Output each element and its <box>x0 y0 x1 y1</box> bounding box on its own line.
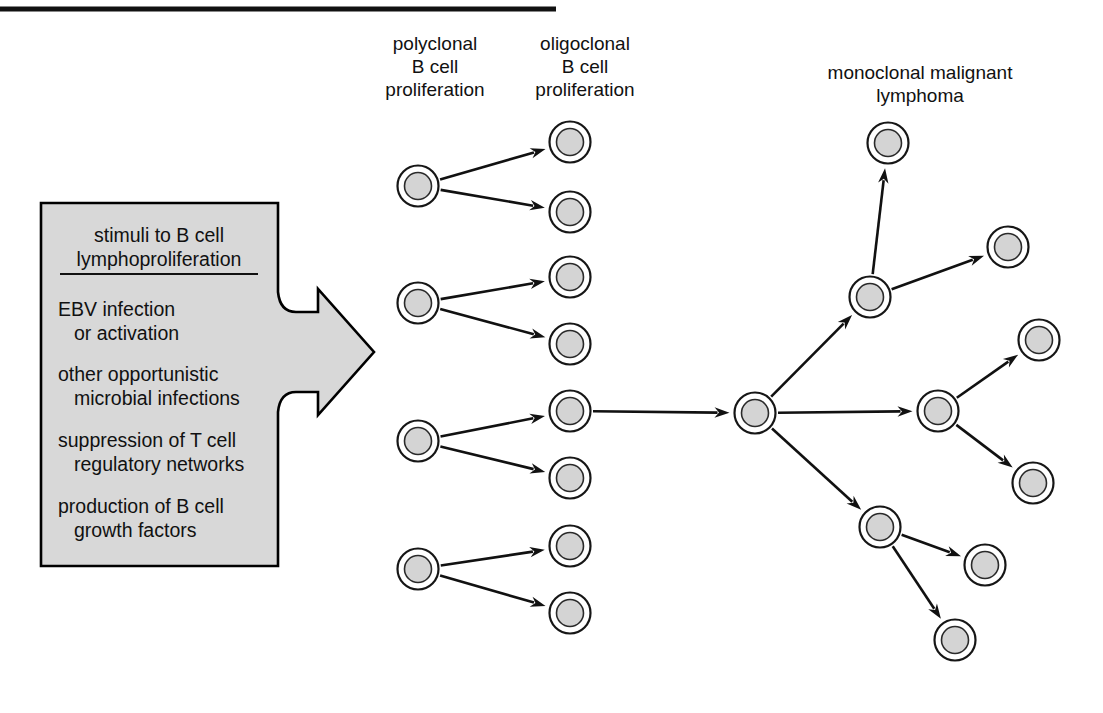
cell-nucleus <box>405 556 432 583</box>
arrow <box>441 279 545 299</box>
label-polyclonal-line1: polyclonal <box>393 33 478 54</box>
cell-layer <box>398 122 1060 661</box>
arrow-shaft <box>902 535 950 552</box>
arrow <box>440 446 545 473</box>
cell-nucleus <box>405 290 432 317</box>
arrow-shaft <box>892 260 973 289</box>
label-polyclonal-line2: B cell <box>412 56 458 77</box>
arrow-layer <box>440 148 1018 618</box>
b-cell <box>550 122 591 163</box>
b-cell <box>735 393 776 434</box>
arrow <box>441 414 545 437</box>
figure-root: polyclonal B cell proliferation oligoclo… <box>0 0 1103 713</box>
cell-nucleus <box>942 627 969 654</box>
arrow-shaft <box>441 190 533 206</box>
label-oligoclonal-line3: proliferation <box>535 79 634 100</box>
arrow <box>873 168 889 274</box>
cell-nucleus <box>557 331 584 358</box>
b-cell <box>398 166 439 207</box>
b-cell <box>550 593 591 634</box>
stimuli-item-0-line2: or activation <box>74 322 179 344</box>
b-cell <box>1013 463 1054 504</box>
arrow <box>440 575 545 606</box>
arrow-shaft <box>873 180 884 274</box>
cell-nucleus <box>557 600 584 627</box>
b-cell <box>398 283 439 324</box>
cell-nucleus <box>742 400 769 427</box>
arrow-shaft <box>771 324 843 397</box>
arrow-shaft <box>956 425 1003 460</box>
b-cell <box>550 192 591 233</box>
cell-nucleus <box>557 398 584 425</box>
stimuli-item-0-line1: EBV infection <box>58 298 175 320</box>
arrow <box>593 407 730 417</box>
stimuli-item-3-line1: production of B cell <box>58 495 224 517</box>
b-cell <box>965 545 1006 586</box>
cell-nucleus <box>557 264 584 291</box>
b-cell <box>550 257 591 298</box>
cell-nucleus <box>925 398 952 425</box>
cell-nucleus <box>557 129 584 156</box>
stimuli-item-1-line1: other opportunistic <box>58 363 219 385</box>
cell-nucleus <box>557 465 584 492</box>
lymphoma-progression-diagram: polyclonal B cell proliferation oligoclo… <box>0 0 1103 713</box>
b-cell <box>918 391 959 432</box>
label-monoclonal-line2: lymphoma <box>876 85 964 106</box>
cell-nucleus <box>972 552 999 579</box>
arrow <box>440 309 545 338</box>
arrow <box>892 256 984 289</box>
arrow <box>441 547 545 566</box>
cell-nucleus <box>1020 470 1047 497</box>
cell-nucleus <box>405 173 432 200</box>
stimuli-item-1-line2: microbial infections <box>74 387 240 409</box>
cell-nucleus <box>995 234 1022 261</box>
b-cell <box>550 458 591 499</box>
cell-nucleus <box>405 428 432 455</box>
arrow <box>772 429 861 510</box>
b-cell <box>860 507 901 548</box>
b-cell <box>988 227 1029 268</box>
b-cell <box>868 123 909 164</box>
cell-nucleus <box>867 514 894 541</box>
b-cell <box>935 620 976 661</box>
arrow <box>441 190 545 210</box>
arrow-shaft <box>441 283 533 299</box>
arrow <box>893 546 941 619</box>
arrow-shaft <box>440 152 534 179</box>
label-oligoclonal-line1: oligoclonal <box>540 33 630 54</box>
label-polyclonal-line3: proliferation <box>385 79 484 100</box>
b-cell <box>550 391 591 432</box>
label-oligoclonal: oligoclonal B cell proliferation <box>535 33 634 100</box>
arrow <box>440 148 545 179</box>
stimuli-heading-line1: stimuli to B cell <box>94 224 224 246</box>
stimuli-item-2-line2: regulatory networks <box>74 453 244 475</box>
arrow-shaft <box>440 309 534 334</box>
b-cell <box>398 549 439 590</box>
stimuli-item-3-line2: growth factors <box>74 519 197 541</box>
arrow-shaft <box>778 411 901 412</box>
b-cell <box>850 277 891 318</box>
arrow-head <box>928 603 941 618</box>
label-oligoclonal-line2: B cell <box>562 56 608 77</box>
label-monoclonal-line1: monoclonal malignant <box>828 62 1014 83</box>
arrow <box>771 315 852 397</box>
cell-nucleus <box>1026 327 1053 354</box>
cell-nucleus <box>857 284 884 311</box>
cell-nucleus <box>557 199 584 226</box>
b-cell <box>550 526 591 567</box>
arrow-shaft <box>593 411 718 412</box>
label-polyclonal: polyclonal B cell proliferation <box>385 33 484 100</box>
arrow-shaft <box>440 446 533 469</box>
arrow-shaft <box>957 362 1009 398</box>
arrow <box>956 425 1012 468</box>
b-cell <box>1019 320 1060 361</box>
arrow-shaft <box>772 429 852 502</box>
cell-nucleus <box>875 130 902 157</box>
stimuli-item-2-line1: suppression of T cell <box>58 429 236 451</box>
b-cell <box>550 324 591 365</box>
arrow-head <box>1003 355 1018 368</box>
arrow <box>957 355 1018 398</box>
arrow <box>902 535 961 556</box>
b-cell <box>398 421 439 462</box>
arrow <box>778 406 913 416</box>
